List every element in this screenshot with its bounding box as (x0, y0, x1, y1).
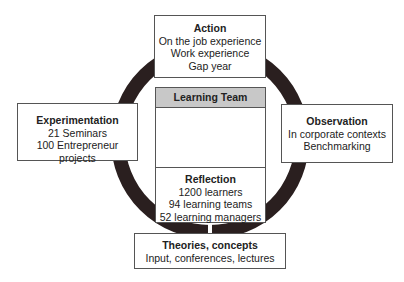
action-title: Action (155, 22, 265, 35)
observation-line: In corporate contexts (282, 128, 392, 141)
learning-team-box: Learning Team Reflection 1200 learners 9… (155, 87, 266, 223)
reflection-line: 52 learning managers (156, 211, 265, 224)
theories-line: Input, conferences, lectures (135, 252, 285, 265)
learning-team-header: Learning Team (156, 88, 265, 108)
reflection-title: Reflection (156, 173, 265, 186)
experimentation-line: 100 Entrepreneur projects (18, 139, 137, 164)
action-line: On the job experience (155, 35, 265, 48)
theories-title: Theories, concepts (135, 239, 285, 252)
experimentation-line: 21 Seminars (18, 127, 137, 140)
observation-line: Benchmarking (282, 140, 392, 153)
experimentation-title: Experimentation (18, 114, 137, 127)
reflection-line: 94 learning teams (156, 198, 265, 211)
theories-box: Theories, concepts Input, conferences, l… (134, 233, 286, 269)
experimentation-box: Experimentation 21 Seminars 100 Entrepre… (17, 103, 138, 161)
reflection-line: 1200 learners (156, 186, 265, 199)
observation-box: Observation In corporate contexts Benchm… (281, 104, 393, 163)
action-box: Action On the job experience Work experi… (154, 15, 266, 78)
reflection-section: Reflection 1200 learners 94 learning tea… (156, 168, 265, 223)
learning-team-body (156, 108, 265, 168)
action-line: Gap year (155, 60, 265, 73)
observation-title: Observation (282, 115, 392, 128)
action-line: Work experience (155, 47, 265, 60)
